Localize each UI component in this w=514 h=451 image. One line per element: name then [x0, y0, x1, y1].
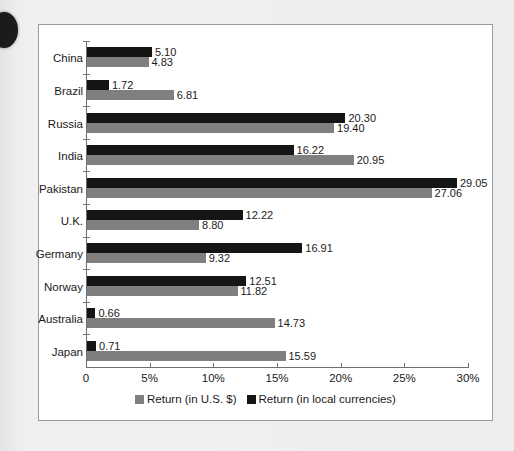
bar-us-dollars [87, 318, 275, 328]
bar-value-local-currency: 29.05 [460, 178, 488, 188]
x-axis-tick-label: 0 [83, 372, 89, 384]
bar-value-local-currency: 12.51 [249, 276, 277, 286]
bar-us-dollars [87, 286, 238, 296]
bar-us-dollars [87, 253, 206, 263]
x-axis-tick [404, 363, 405, 368]
bar-value-us-dollars: 8.80 [202, 220, 223, 230]
x-axis-tick [86, 363, 87, 368]
bar-local-currency [87, 276, 246, 286]
x-axis-tick [468, 363, 469, 368]
chart-frame: ChinaBrazilRussiaIndiaPakistanU.K.German… [38, 24, 493, 421]
legend-swatch-icon [247, 395, 256, 404]
category-label: Norway [44, 282, 83, 294]
category-label: Australia [38, 314, 83, 326]
bar-local-currency [87, 341, 96, 351]
plot-area: 05%10%15%20%25%30%5.104.831.726.8120.301… [86, 41, 486, 371]
x-axis-tick [150, 363, 151, 368]
x-axis-tick [341, 363, 342, 368]
legend-item: Return (in U.S. $) [135, 393, 236, 405]
x-axis-tick-label: 10% [202, 372, 225, 384]
category-label: India [58, 151, 83, 163]
legend-item: Return (in local currencies) [247, 393, 396, 405]
x-axis-tick [213, 363, 214, 368]
legend-label: Return (in U.S. $) [147, 393, 236, 405]
y-axis-tick [83, 269, 90, 270]
bar-value-local-currency: 0.66 [98, 308, 119, 318]
category-label: U.K. [61, 216, 83, 228]
bar-value-local-currency: 16.22 [297, 145, 325, 155]
bar-us-dollars [87, 90, 174, 100]
category-label: Russia [48, 119, 83, 131]
bar-value-local-currency: 16.91 [305, 243, 333, 253]
bar-value-local-currency: 0.71 [99, 341, 120, 351]
category-label: Pakistan [39, 184, 83, 196]
y-axis-tick [83, 334, 90, 335]
y-axis-tick [83, 74, 90, 75]
bar-value-us-dollars: 6.81 [177, 90, 198, 100]
bar-value-local-currency: 12.22 [246, 210, 274, 220]
category-label: China [53, 53, 83, 65]
bar-us-dollars [87, 351, 286, 361]
x-axis-tick-label: 15% [265, 372, 288, 384]
category-label: Japan [52, 347, 83, 359]
bar-value-us-dollars: 20.95 [357, 155, 385, 165]
bar-value-us-dollars: 9.32 [209, 253, 230, 263]
bar-chart: ChinaBrazilRussiaIndiaPakistanU.K.German… [39, 25, 492, 420]
x-axis-tick-label: 25% [393, 372, 416, 384]
bar-local-currency [87, 308, 95, 318]
y-axis-tick [83, 237, 90, 238]
x-axis-tick-label: 20% [329, 372, 352, 384]
page-binding-dot-icon [0, 12, 18, 48]
bar-local-currency [87, 178, 457, 188]
y-axis-tick [83, 139, 90, 140]
category-label: Germany [36, 249, 83, 261]
category-label: Brazil [54, 86, 83, 98]
bar-local-currency [87, 80, 109, 90]
bar-us-dollars [87, 188, 432, 198]
bar-value-us-dollars: 4.83 [152, 57, 173, 67]
bar-value-us-dollars: 11.82 [241, 286, 268, 296]
bar-value-us-dollars: 14.73 [278, 318, 306, 328]
chart-legend: Return (in U.S. $)Return (in local curre… [39, 393, 492, 405]
bar-value-local-currency: 1.72 [112, 80, 133, 90]
bar-local-currency [87, 47, 152, 57]
bar-us-dollars [87, 123, 334, 133]
page-background: ChinaBrazilRussiaIndiaPakistanU.K.German… [0, 0, 514, 451]
bar-us-dollars [87, 220, 199, 230]
bar-value-us-dollars: 19.40 [337, 123, 365, 133]
y-axis-tick [83, 106, 90, 107]
category-axis-labels: ChinaBrazilRussiaIndiaPakistanU.K.German… [39, 25, 83, 420]
y-axis-tick [83, 171, 90, 172]
bar-value-us-dollars: 15.59 [289, 351, 317, 361]
bar-local-currency [87, 243, 302, 253]
bar-value-us-dollars: 27.06 [435, 188, 463, 198]
x-axis-tick-label: 5% [141, 372, 158, 384]
legend-swatch-icon [135, 395, 144, 404]
bar-us-dollars [87, 155, 354, 165]
bar-us-dollars [87, 57, 149, 67]
y-axis-tick [83, 204, 90, 205]
x-axis-tick-label: 30% [456, 372, 479, 384]
x-axis-tick [277, 363, 278, 368]
bar-value-local-currency: 20.30 [348, 113, 376, 123]
y-axis-tick [83, 302, 90, 303]
bar-local-currency [87, 145, 294, 155]
legend-label: Return (in local currencies) [259, 393, 396, 405]
y-axis-tick [83, 41, 90, 42]
bar-local-currency [87, 113, 345, 123]
